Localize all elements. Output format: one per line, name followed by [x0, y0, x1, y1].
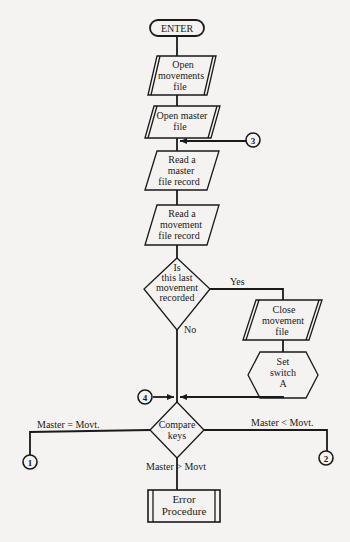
node-text: file — [275, 326, 289, 337]
node-text: Open — [172, 59, 194, 70]
node-text: Procedure — [162, 505, 207, 517]
connector-4: 4 — [138, 390, 174, 404]
node-text: Close — [273, 304, 296, 315]
error-procedure-node: Error Procedure — [148, 490, 220, 522]
yes-label: Yes — [230, 276, 245, 287]
read-movement-record-node: Read a movement file record — [145, 205, 219, 245]
master-greater-label: Master > Movt — [146, 461, 206, 472]
set-switch-a-node: Set switch A — [248, 352, 318, 398]
node-text: recorded — [160, 292, 195, 303]
enter-label: ENTER — [161, 23, 194, 34]
node-text: A — [279, 378, 287, 389]
node-text: Open master — [157, 110, 208, 121]
last-movement-decision: Is this last movement recorded — [144, 258, 210, 330]
node-text: Set — [277, 356, 290, 367]
master-equal-branch — [30, 430, 150, 455]
node-text: keys — [168, 430, 186, 441]
node-text: Read a — [168, 154, 196, 165]
return-line — [180, 397, 283, 398]
node-text: Error — [172, 493, 196, 505]
connector-2: 2 — [319, 451, 333, 465]
connector-label: 2 — [324, 454, 329, 464]
open-movements-file-node: Open movements file — [148, 56, 216, 95]
node-text: switch — [270, 367, 296, 378]
master-equal-label: Master = Movt. — [37, 419, 100, 430]
node-text: Compare — [159, 419, 196, 430]
connector-3: 3 — [180, 133, 260, 147]
connector-label: 3 — [251, 136, 256, 146]
node-text: file record — [158, 230, 199, 241]
open-master-file-node: Open master file — [145, 106, 220, 138]
connector-label: 4 — [143, 393, 148, 403]
node-text: file record — [158, 176, 199, 187]
node-text: file — [173, 121, 187, 132]
node-text: movement — [160, 219, 202, 230]
connector-label: 1 — [28, 458, 33, 468]
node-text: file — [173, 81, 187, 92]
master-less-label: Master < Movt. — [251, 417, 314, 428]
no-label: No — [184, 324, 196, 335]
connector-1: 1 — [23, 455, 37, 469]
close-movement-file-node: Close movement file — [243, 300, 322, 340]
node-text: movement — [262, 315, 304, 326]
node-text: master — [168, 165, 195, 176]
read-master-record-node: Read a master file record — [145, 151, 219, 190]
yes-branch-line — [210, 289, 283, 300]
compare-keys-decision: Compare keys — [150, 402, 204, 458]
node-text: movements — [158, 70, 204, 81]
node-text: Read a — [168, 208, 196, 219]
master-less-branch — [204, 430, 327, 451]
flowchart: ENTER Open movements file Open master fi… — [0, 0, 350, 542]
enter-terminal: ENTER — [150, 20, 204, 36]
